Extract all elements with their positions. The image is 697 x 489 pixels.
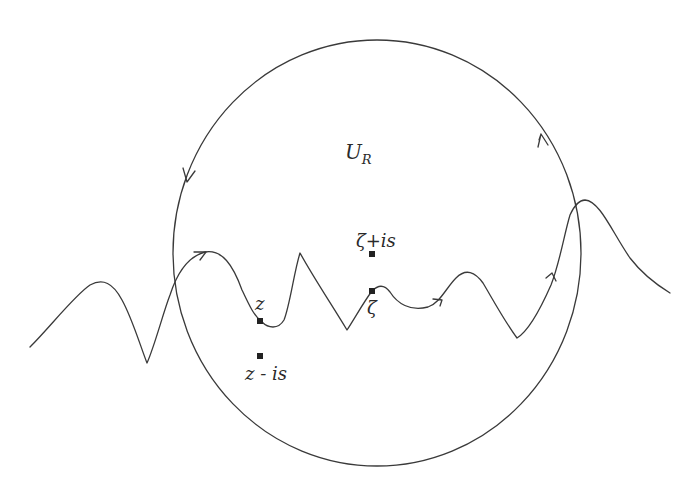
point-zeta-plus-is [369,251,375,257]
arrow-right-icon [433,299,442,306]
contour-diagram: UR ζ+is ζ z z - is [0,0,697,489]
label-zeta-plus-is: ζ+is [356,230,396,251]
label-zeta: ζ [367,297,378,318]
label-z-minus-is: z - is [244,363,287,384]
point-z-minus-is [257,353,263,359]
arrow-up-icon [538,134,548,147]
point-zeta [369,288,375,294]
wavy-curve [30,200,670,363]
region-label: UR [345,140,372,167]
circle-contour [173,40,581,466]
label-z: z [254,293,265,314]
point-z [257,318,263,324]
